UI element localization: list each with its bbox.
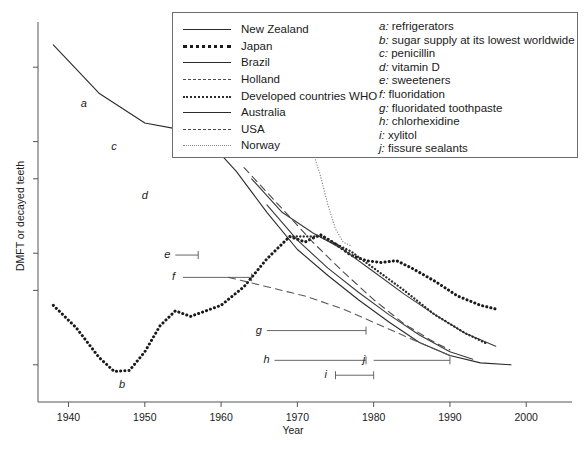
annotation-note-key: e: (379, 74, 389, 86)
annotation-note-f: f: fluoridation (379, 88, 575, 102)
legend-item-label: Japan (241, 40, 272, 52)
series-line-developed-countries-who (290, 237, 488, 345)
annotation-note-text: xylitol (385, 129, 417, 141)
legend-item-australia[interactable]: Australia (181, 104, 371, 121)
annotation-note-key: g: (379, 102, 389, 114)
legend-line-swatch (181, 90, 233, 102)
annotation-marker-c: c (111, 140, 117, 152)
annotation-note-i: i: xylitol (379, 129, 575, 143)
legend-line-swatch (181, 23, 233, 35)
annotation-layer (175, 251, 450, 379)
legend-item-label: New Zealand (241, 23, 309, 35)
annotation-note-text: penicillin (388, 47, 435, 59)
series-line-brazil (252, 179, 496, 346)
legend-line-swatch (181, 56, 233, 68)
annotation-marker-f: f (172, 270, 175, 282)
legend-item-holland[interactable]: Holland (181, 71, 371, 88)
chart-figure: DMFT or decayed teeth Year New ZealandJa… (0, 0, 586, 451)
x-tick-label: 1950 (125, 411, 165, 423)
legend-line-swatch (181, 40, 233, 52)
annotation-note-c: c: penicillin (379, 47, 575, 61)
annotation-marker-b: b (119, 378, 125, 390)
annotation-marker-a: a (81, 97, 87, 109)
annotation-marker-j: j (363, 353, 365, 365)
annotation-marker-d: d (142, 189, 148, 201)
annotation-note-text: vitamin D (389, 61, 440, 73)
annotation-note-key: c: (379, 47, 388, 59)
legend-and-notes-box: New ZealandJapanBrazilHollandDeveloped c… (172, 12, 578, 158)
annotation-marker-h: h (263, 353, 269, 365)
legend-item-usa[interactable]: USA (181, 121, 371, 138)
legend-item-brazil[interactable]: Brazil (181, 54, 371, 71)
legend-item-label: Australia (241, 106, 286, 118)
x-axis-title: Year (0, 424, 586, 436)
x-tick-label: 1940 (49, 411, 89, 423)
annotation-note-text: fluoridation (385, 88, 444, 100)
legend-item-label: Brazil (241, 56, 270, 68)
annotation-note-a: a: refrigerators (379, 20, 575, 34)
x-tick-label: 1960 (201, 411, 241, 423)
annotation-note-d: d: vitamin D (379, 61, 575, 75)
annotation-note-key: b: (379, 34, 389, 46)
legend-item-norway[interactable]: Norway (181, 137, 371, 154)
legend-item-japan[interactable]: Japan (181, 38, 371, 55)
legend-item-label: Norway (241, 139, 280, 151)
legend-line-swatch (181, 139, 233, 151)
annotation-note-h: h: chlorhexidine (379, 115, 575, 129)
annotation-marker-i: i (325, 368, 327, 380)
series-line-holland (244, 168, 450, 350)
annotation-note-text: fissure sealants (385, 142, 468, 154)
x-tick-label: 1980 (354, 411, 394, 423)
series-line-australia (267, 205, 473, 359)
annotation-note-e: e: sweeteners (379, 74, 575, 88)
legend-item-developed-countries-who[interactable]: Developed countries WHO (181, 87, 371, 104)
legend-item-label: USA (241, 123, 265, 135)
legend-line-swatch (181, 123, 233, 135)
y-axis-title: DMFT or decayed teeth (14, 136, 26, 296)
legend-line-swatch (181, 106, 233, 118)
annotation-key-list: a: refrigeratorsb: sugar supply at its l… (379, 20, 575, 156)
annotation-note-text: sugar supply at its lowest worldwide (389, 34, 575, 46)
annotation-note-j: j: fissure sealants (379, 142, 575, 156)
legend-item-label: Holland (241, 73, 280, 85)
series-line-japan (53, 235, 495, 372)
annotation-note-key: h: (379, 115, 389, 127)
annotation-note-key: a: (379, 20, 389, 32)
annotation-note-b: b: sugar supply at its lowest worldwide (379, 34, 575, 48)
series-line-usa (229, 277, 450, 355)
series-legend: New ZealandJapanBrazilHollandDeveloped c… (181, 21, 371, 154)
annotation-note-text: sweeteners (389, 74, 451, 86)
legend-line-swatch (181, 73, 233, 85)
annotation-note-g: g: fluoridated toothpaste (379, 102, 575, 116)
x-tick-label: 1990 (430, 411, 470, 423)
annotation-note-text: fluoridated toothpaste (389, 102, 503, 114)
legend-item-new-zealand[interactable]: New Zealand (181, 21, 371, 38)
annotation-marker-g: g (256, 324, 262, 336)
legend-item-label: Developed countries WHO (241, 90, 377, 102)
annotation-note-key: d: (379, 61, 389, 73)
x-tick-label: 1970 (277, 411, 317, 423)
x-tick-label: 2000 (506, 411, 546, 423)
annotation-note-text: chlorhexidine (389, 115, 460, 127)
annotation-note-text: refrigerators (389, 20, 454, 32)
annotation-marker-e: e (164, 248, 170, 260)
